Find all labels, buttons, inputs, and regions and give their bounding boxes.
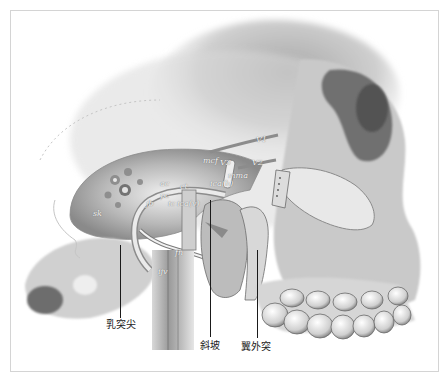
label-sk: sk	[93, 210, 102, 218]
label-v2: V2	[252, 159, 263, 167]
label-ica-h: ica(h)	[210, 180, 233, 188]
skull-illustration	[0, 0, 442, 379]
label-ic: ic	[168, 200, 175, 208]
callout-mastoid-tip: 乳突尖	[106, 320, 136, 330]
label-fn: fn	[175, 249, 183, 257]
label-v1: V1	[256, 136, 267, 144]
clivus-leader-line	[210, 200, 211, 337]
label-v3: V3	[220, 159, 231, 167]
callout-clivus: 斜坡	[200, 341, 220, 351]
label-ijv: ijv	[158, 268, 168, 276]
callout-lateral-pterygoid-plate: 翼外突	[241, 342, 271, 352]
label-ct: ct	[180, 183, 188, 191]
lateral-pterygoid-leader-line	[257, 250, 258, 338]
label-ac: ac	[160, 180, 169, 188]
label-mcf: mcf	[203, 157, 218, 165]
label-jb: jb	[146, 200, 154, 208]
mastoid-tip-leader-line	[120, 245, 121, 318]
label-ica-v: ica(v)	[177, 200, 200, 208]
